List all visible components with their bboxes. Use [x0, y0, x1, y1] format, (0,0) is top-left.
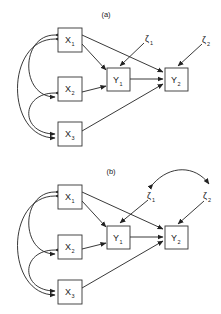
svg-text:1: 1 [72, 198, 75, 204]
svg-text:ζ: ζ [202, 35, 206, 45]
cov-x2-x3 [29, 93, 55, 134]
node-x3: X 3 [58, 122, 82, 146]
node-zeta2: ζ 2 [203, 191, 211, 203]
node-y2: Y 2 [165, 68, 188, 91]
svg-text:Y: Y [171, 233, 177, 243]
svg-text:2: 2 [208, 197, 211, 203]
panel-a-title: (a) [101, 10, 111, 19]
svg-text:2: 2 [178, 239, 181, 245]
node-zeta1: ζ 1 [145, 34, 153, 46]
cov-x1-x2 [29, 35, 55, 97]
panel-a: (a) X 1 X 2 X 3 Y 1 [18, 10, 211, 146]
svg-text:1: 1 [150, 40, 153, 46]
svg-text:2: 2 [207, 41, 210, 47]
svg-text:X: X [65, 287, 71, 297]
svg-text:2: 2 [178, 81, 181, 87]
svg-text:X: X [65, 242, 71, 252]
svg-text:X: X [65, 192, 71, 202]
svg-text:X: X [65, 84, 71, 94]
svg-text:ζ: ζ [203, 191, 207, 201]
node-x2: X 2 [58, 235, 82, 259]
node-x1: X 1 [58, 28, 82, 52]
node-x2: X 2 [58, 77, 82, 101]
svg-text:ζ: ζ [147, 191, 151, 201]
svg-text:1: 1 [152, 197, 155, 203]
svg-text:X: X [65, 129, 71, 139]
svg-text:1: 1 [120, 239, 123, 245]
node-x3: X 3 [58, 280, 82, 304]
svg-text:1: 1 [72, 41, 75, 47]
svg-text:Y: Y [171, 75, 177, 85]
node-y2: Y 2 [165, 226, 188, 249]
cov-x1-x2 [29, 192, 55, 254]
svg-text:3: 3 [72, 135, 75, 141]
node-y1: Y 1 [107, 68, 130, 91]
path-diagrams: (a) X 1 X 2 X 3 Y 1 [0, 0, 221, 314]
path-x1-y1 [82, 44, 106, 70]
svg-text:2: 2 [72, 248, 75, 254]
svg-text:3: 3 [72, 293, 75, 299]
panel-b-title: (b) [106, 167, 116, 176]
path-x1-y1 [82, 201, 106, 227]
svg-text:Y: Y [113, 75, 119, 85]
cov-x2-x3 [29, 250, 55, 291]
path-z1-y1 [120, 43, 144, 66]
node-zeta1: ζ 1 [147, 191, 155, 203]
path-x2-y1 [82, 86, 106, 92]
svg-text:Y: Y [113, 233, 119, 243]
svg-text:X: X [65, 35, 71, 45]
path-x2-y1 [82, 243, 106, 249]
svg-text:ζ: ζ [145, 34, 149, 44]
cov-z1-z2 [153, 170, 209, 184]
path-z2-y2 [178, 44, 202, 66]
node-y1: Y 1 [107, 226, 130, 249]
svg-text:2: 2 [72, 90, 75, 96]
panel-b: (b) X 1 X 2 X 3 Y 1 [18, 167, 212, 304]
svg-text:1: 1 [120, 81, 123, 87]
path-z2-y2 [178, 201, 204, 224]
node-x1: X 1 [58, 185, 82, 209]
node-zeta2: ζ 2 [202, 35, 210, 47]
